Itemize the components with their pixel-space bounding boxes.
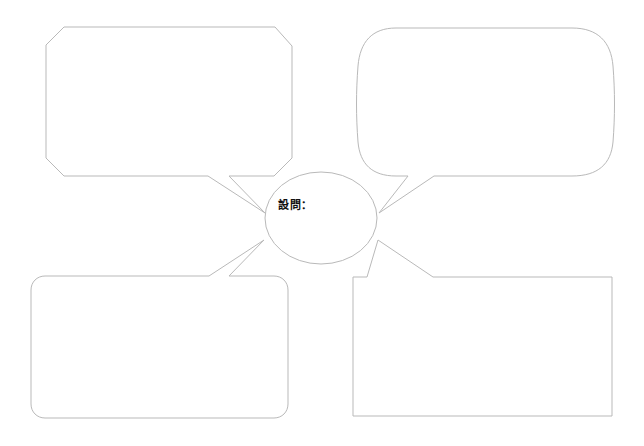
worksheet-canvas: 設問： xyxy=(0,0,644,446)
answer-text-top-right[interactable] xyxy=(375,34,599,168)
question-hub-circle[interactable] xyxy=(265,172,377,264)
answer-text-top-left[interactable] xyxy=(42,32,278,166)
answer-text-bottom-right[interactable] xyxy=(360,284,604,410)
question-hub-label: 設問： xyxy=(278,199,313,213)
answer-text-bottom-left[interactable] xyxy=(40,282,276,408)
